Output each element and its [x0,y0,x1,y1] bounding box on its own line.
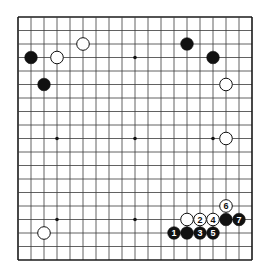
white-stone[interactable] [181,213,194,226]
white-stone-disc [181,213,194,226]
move-number: 4 [210,215,215,225]
white-stone[interactable] [51,51,64,64]
star-point [55,137,59,141]
white-stone[interactable] [77,38,90,51]
black-stone-7[interactable]: 7 [233,213,246,226]
white-stone-6[interactable]: 6 [220,200,233,213]
black-stone[interactable] [181,38,194,51]
black-stone-5[interactable]: 5 [207,227,220,240]
white-stone[interactable] [38,227,51,240]
go-board[interactable]: 2476135 [0,0,270,276]
black-stone-disc [181,227,194,240]
star-point [133,137,137,141]
black-stone[interactable] [38,78,51,91]
black-stone[interactable] [181,227,194,240]
white-stone-disc [220,132,233,145]
white-stone-disc [77,38,90,51]
move-number: 5 [210,228,215,238]
black-stone-disc [207,51,220,64]
black-stone-disc [181,38,194,51]
black-stone-1[interactable]: 1 [168,227,181,240]
white-stone-disc [38,227,51,240]
star-point [211,137,215,141]
black-stone[interactable] [207,51,220,64]
white-stone-disc [51,51,64,64]
star-point [55,218,59,222]
black-stone-disc [220,213,233,226]
white-stone-2[interactable]: 2 [194,213,207,226]
white-stone[interactable] [220,78,233,91]
white-stone-4[interactable]: 4 [207,213,220,226]
move-number: 2 [197,215,202,225]
move-number: 3 [197,228,202,238]
star-point [133,218,137,222]
black-stone-disc [25,51,38,64]
white-stone-disc [220,78,233,91]
move-number: 7 [236,215,241,225]
move-number: 6 [223,201,228,211]
black-stone[interactable] [25,51,38,64]
black-stone-3[interactable]: 3 [194,227,207,240]
white-stone[interactable] [220,132,233,145]
black-stone-disc [38,78,51,91]
move-number: 1 [171,228,176,238]
star-point [133,56,137,60]
black-stone[interactable] [220,213,233,226]
